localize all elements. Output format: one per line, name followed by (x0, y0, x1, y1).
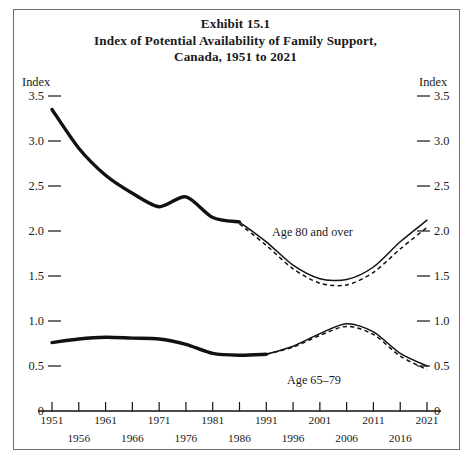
x-tick-label-1996: 1996 (271, 432, 315, 444)
x-tick-label-2021: 2021 (405, 414, 449, 426)
x-tick-label-2016: 2016 (378, 432, 422, 444)
y-tick-label-right-2.5: 2.5 (434, 180, 471, 192)
series-age-65-79-observed (52, 337, 266, 355)
y-tick-label-left-1.0: 1.0 (0, 315, 44, 327)
x-tick-label-1991: 1991 (244, 414, 288, 426)
y-tick-label-left-0.5: 0.5 (0, 360, 44, 372)
y-tick-label-right-3.5: 3.5 (434, 90, 471, 102)
x-tick-label-1961: 1961 (84, 414, 128, 426)
y-tick-label-left-3.0: 3.0 (0, 135, 44, 147)
x-tick-label-1966: 1966 (110, 432, 154, 444)
x-tick-label-1956: 1956 (57, 432, 101, 444)
y-tick-label-left-3.5: 3.5 (0, 90, 44, 102)
plot-area (0, 0, 471, 458)
chart-figure: Exhibit 15.1 Index of Potential Availabi… (0, 0, 471, 458)
series-age-65-79-projection (266, 324, 427, 366)
y-tick-label-right-1.0: 1.0 (434, 315, 471, 327)
y-tick-label-right-3.0: 3.0 (434, 135, 471, 147)
series-age-80-and-over-alt-dashed (240, 224, 428, 286)
x-tick-label-1976: 1976 (164, 432, 208, 444)
x-tick-label-1971: 1971 (137, 414, 181, 426)
y-tick-label-left-2.5: 2.5 (0, 180, 44, 192)
series-age-80-and-over-observed (52, 110, 240, 223)
y-tick-label-right-2.0: 2.0 (434, 225, 471, 237)
x-tick-label-1981: 1981 (191, 414, 235, 426)
x-tick-label-2011: 2011 (351, 414, 395, 426)
y-tick-label-right-0.5: 0.5 (434, 360, 471, 372)
x-tick-label-2001: 2001 (298, 414, 342, 426)
series-age-65-79-alt-dashed (266, 326, 427, 369)
x-tick-label-2006: 2006 (325, 432, 369, 444)
x-tick-label-1951: 1951 (30, 414, 74, 426)
series-age-80-and-over-projection (240, 220, 428, 280)
y-tick-label-left-1.5: 1.5 (0, 270, 44, 282)
y-tick-label-right-1.5: 1.5 (434, 270, 471, 282)
x-tick-label-1986: 1986 (218, 432, 262, 444)
y-tick-label-left-2.0: 2.0 (0, 225, 44, 237)
